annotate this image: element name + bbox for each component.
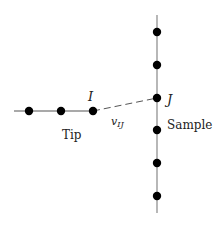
diagram-svg: I J vIJ Tip Sample <box>0 0 216 227</box>
atom-dot <box>153 159 161 167</box>
coupling-subscript: IJ <box>116 120 124 129</box>
label-sample: Sample <box>167 118 212 132</box>
label-sample-atom-J: J <box>164 92 173 107</box>
atom-dot <box>153 28 161 36</box>
label-tip: Tip <box>62 128 82 142</box>
label-coupling-v: vIJ <box>111 115 124 129</box>
atom-dot <box>153 126 161 134</box>
tip-sample-diagram: I J vIJ Tip Sample <box>0 0 216 227</box>
atom-dot <box>153 192 161 200</box>
atom-dot <box>25 107 33 115</box>
atom-dot <box>153 94 161 102</box>
atom-dot <box>89 107 97 115</box>
label-tip-atom-I: I <box>87 89 94 104</box>
atom-dot <box>57 107 65 115</box>
atom-dot <box>153 61 161 69</box>
coupling-dashed-line <box>93 98 157 111</box>
